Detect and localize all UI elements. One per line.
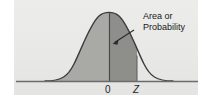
axis-tick-label-zero: 0 bbox=[105, 85, 111, 95]
annotation-line-2: Probability bbox=[143, 22, 185, 33]
figure-container: Area or Probability 0 Z bbox=[0, 0, 213, 105]
annotation-line-1: Area or bbox=[143, 11, 185, 22]
annotation-label: Area or Probability bbox=[143, 11, 185, 33]
axis-tick-label-z: Z bbox=[133, 85, 139, 95]
